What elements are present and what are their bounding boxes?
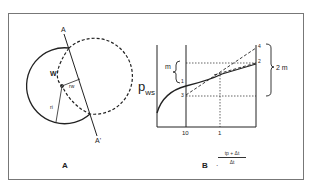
- line-bottom-label: A': [95, 137, 101, 144]
- rw-label: rw: [69, 84, 74, 89]
- dashed-arc: [57, 48, 90, 114]
- dashed-circle: [69, 38, 132, 114]
- point-4-label: 4: [258, 44, 261, 49]
- panel-b-drawing: [157, 44, 274, 127]
- pressure-curve: [157, 64, 256, 113]
- dashed-line-1-2: [214, 63, 256, 75]
- x-tick-10: 10: [182, 130, 189, 136]
- ri-label: ri: [50, 105, 53, 110]
- point-1-label: 1: [181, 79, 184, 84]
- x-axis-label: tp + Δt Δt: [218, 150, 246, 165]
- radius-ri: [56, 86, 62, 122]
- point-3-label: 3: [181, 93, 184, 98]
- slope-2m-label: 2 m: [276, 64, 288, 71]
- dashed-line-3-4: [186, 48, 256, 95]
- point-2-label: 2: [258, 59, 261, 64]
- brace-2m: [266, 44, 274, 96]
- line-top-label: A: [61, 26, 66, 33]
- panel-a-drawing: [27, 34, 133, 136]
- x-tick-1: 1: [218, 130, 221, 136]
- panel-a-label: A: [62, 162, 68, 170]
- panel-b-label: B: [202, 162, 208, 170]
- brace-m: [173, 61, 180, 83]
- well-label: W: [50, 70, 57, 77]
- slope-m-label: m: [165, 63, 171, 70]
- panel-b-mark: ·: [216, 162, 218, 169]
- y-axis-label: pws: [138, 80, 155, 97]
- diagram-graphics: [0, 0, 313, 192]
